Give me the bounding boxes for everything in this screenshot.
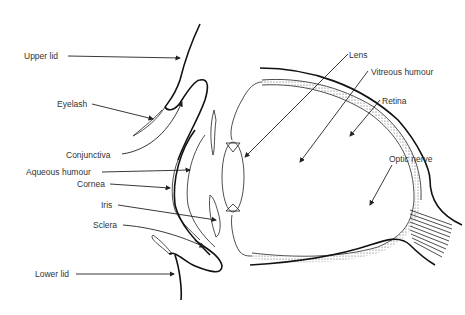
label-sclera: Sclera [93,220,117,230]
retina-shape [252,82,418,260]
label-conjunctiva: Conjunctiva [66,150,110,160]
eyelash-shape [133,107,165,136]
label-iris: Iris [101,200,112,210]
label-lens: Lens [349,50,367,60]
label-cornea: Cornea [77,179,105,189]
lower-lid-shape [175,255,181,300]
iris-shape [211,110,216,155]
sclera-shape [260,68,462,225]
label-upper-lid: Upper lid [24,51,58,61]
label-lower-lid: Lower lid [35,269,69,279]
label-vitreous-humour: Vitreous humour [371,67,433,77]
label-eyelash: Eyelash [57,99,87,109]
upper-lid-shape [165,24,200,107]
label-optic-nerve: Optic nerve [389,154,432,164]
label-retina: Retina [382,96,407,106]
label-aqueous-humour: Aqueous humour [26,167,91,177]
